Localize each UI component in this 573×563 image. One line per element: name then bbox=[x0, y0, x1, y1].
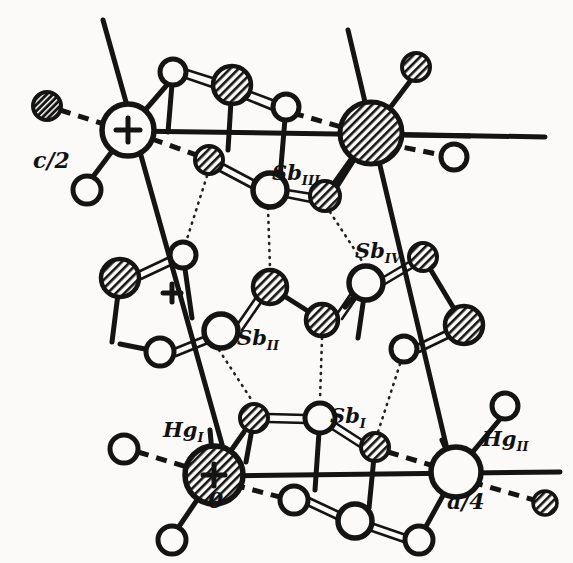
bond-double bbox=[268, 422, 306, 423]
atom-open bbox=[170, 242, 196, 268]
atom-open bbox=[110, 435, 138, 463]
atom-hatched bbox=[253, 270, 287, 304]
atom-hatched bbox=[195, 146, 223, 174]
label-sb-one-base: Sb bbox=[330, 403, 360, 428]
label-a-quarter: a/4 bbox=[447, 488, 485, 514]
atom-hatched-dark bbox=[33, 92, 61, 120]
label-sb-one-sub: I bbox=[359, 416, 367, 431]
label-sb-three-sub: III bbox=[301, 173, 321, 188]
atom-open bbox=[146, 338, 174, 366]
atom-hatched bbox=[101, 259, 139, 297]
label-hg-two-base: Hg bbox=[481, 426, 517, 451]
label-c-half: c/2 bbox=[33, 147, 70, 173]
label-sb-four-sub: IV bbox=[384, 251, 403, 266]
atom-open bbox=[405, 526, 433, 554]
atom-hatched-large bbox=[340, 102, 402, 164]
atom-open bbox=[441, 144, 467, 170]
crystal-structure-figure: c/2 SbIII SbIV SbII SbI HgI HgII 0 a/4 bbox=[0, 0, 573, 563]
atom-open bbox=[492, 393, 518, 419]
label-sb-two-sub: II bbox=[266, 338, 280, 353]
label-hg-one-sub: I bbox=[197, 430, 205, 445]
label-sb-three-base: Sb bbox=[272, 160, 302, 185]
atom-hatched bbox=[213, 66, 251, 104]
atom-hatched bbox=[361, 433, 389, 461]
atom-open bbox=[349, 266, 383, 300]
atom-hatched bbox=[402, 53, 430, 81]
label-hg-two-sub: II bbox=[516, 439, 530, 454]
atom-open bbox=[391, 336, 417, 362]
label-origin: 0 bbox=[208, 487, 224, 513]
atom-hatched bbox=[240, 404, 268, 432]
label-sb-four-base: Sb bbox=[355, 238, 385, 263]
atom-open bbox=[280, 486, 308, 514]
atom-open bbox=[338, 504, 372, 538]
atom-open bbox=[158, 526, 186, 554]
atom-hatched bbox=[445, 306, 483, 344]
atom-hatched bbox=[306, 304, 338, 336]
atom-open bbox=[204, 314, 238, 348]
atom-open bbox=[73, 176, 101, 204]
atom-open bbox=[160, 59, 186, 85]
crystal-structure-diagram: c/2 SbIII SbIV SbII SbI HgI HgII 0 a/4 bbox=[0, 0, 573, 563]
label-sb-two-base: Sb bbox=[237, 325, 267, 350]
atom-hatched bbox=[533, 491, 557, 515]
atom-hatched bbox=[409, 243, 437, 271]
label-hg-one-base: Hg bbox=[162, 417, 198, 442]
bond-double bbox=[268, 414, 306, 415]
atom-open bbox=[273, 94, 299, 120]
